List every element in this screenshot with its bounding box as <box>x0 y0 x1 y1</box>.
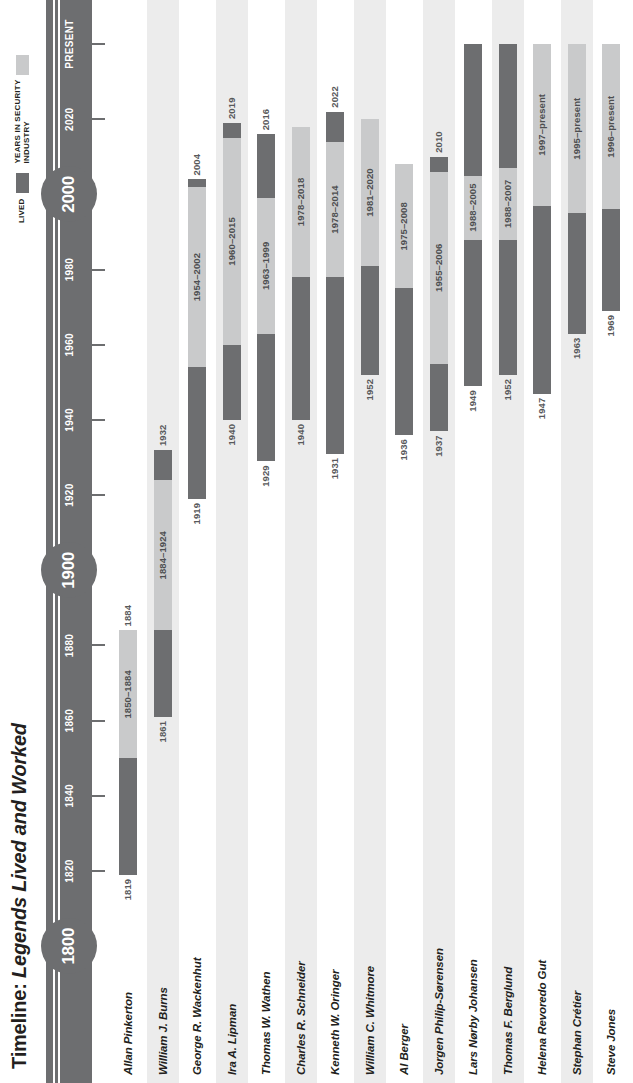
person-name-label: Thomas F. Berglund <box>492 967 524 1075</box>
timeline-axis: 182018401860188019201940196019802020PRES… <box>46 0 104 1083</box>
axis-tick-label: 1860 <box>64 709 75 732</box>
person-name-label: Kenneth W. Oringer <box>319 970 351 1075</box>
work-span-label: 1963–1999 <box>250 242 282 290</box>
person-name-label: Steve Jones <box>595 1009 627 1075</box>
birth-year-label: 1819 <box>112 875 144 901</box>
axis-century-node: 2000 <box>41 166 97 222</box>
work-span-label: 1955–2006 <box>423 244 455 292</box>
axis-century-node: 1800 <box>41 918 97 974</box>
legend-label-lived: LIVED <box>18 198 27 223</box>
lifespan-bar[interactable] <box>361 119 379 375</box>
birth-year-label: 1947 <box>526 394 558 420</box>
end-year-label: 1884 <box>112 605 144 631</box>
person-name-label: Thomas W. Wathen <box>250 972 282 1075</box>
birth-year-label: 1952 <box>354 375 386 401</box>
segment-lived <box>602 209 620 310</box>
timeline-row[interactable]: Thomas W. Wathen19291963–19992016 <box>250 0 282 1083</box>
axis-tick-mark <box>92 494 105 496</box>
work-span-label: 1995–present <box>561 98 593 160</box>
legend-item-worked: YEARS IN SECURITY INDUSTRY <box>14 55 32 164</box>
work-span-label: 1988–2005 <box>457 183 489 231</box>
person-name-label: Charles R. Schneider <box>285 961 317 1075</box>
rotated-artboard: Timeline: Legends Lived and Worked LIVED… <box>0 0 633 1083</box>
page-title: Timeline: Legends Lived and Worked <box>8 723 31 1069</box>
work-span-label: 1996–present <box>595 96 627 158</box>
birth-year-label: 1940 <box>216 420 248 446</box>
person-name-label: George R. Wackenhut <box>181 958 213 1075</box>
birth-year-label: 1936 <box>388 435 420 461</box>
axis-tick-mark <box>92 269 105 271</box>
work-span-label: 1884–1924 <box>147 531 179 579</box>
legend-swatch-worked-icon <box>16 55 29 75</box>
legend: LIVED YEARS IN SECURITY INDUSTRY <box>14 55 32 223</box>
axis-century-node: 1900 <box>41 542 97 598</box>
timeline-row[interactable]: Kenneth W. Oringer19311978–20142022 <box>319 0 351 1083</box>
page-title-emphasis: Legends Lived and Worked <box>8 723 30 978</box>
timeline-row[interactable]: Ira A. Lipman19401960–20152019 <box>216 0 248 1083</box>
axis-tick-label: 1980 <box>64 258 75 281</box>
axis-tick-label: 1940 <box>64 408 75 431</box>
legend-swatch-lived-icon <box>16 173 29 193</box>
timeline-row[interactable]: William C. Whitmore19521981–2020 <box>354 0 386 1083</box>
axis-tick-label: 1820 <box>64 859 75 882</box>
segment-lived-after-work <box>223 123 241 138</box>
end-year-label: 2019 <box>216 97 248 123</box>
end-year-label: 2016 <box>250 109 282 135</box>
segment-lived-after-work <box>188 179 206 187</box>
timeline-row[interactable]: William J. Burns18611884–19241932 <box>147 0 179 1083</box>
timeline-row[interactable]: Charles R. Schneider19401978–2018 <box>285 0 317 1083</box>
lifespan-bar[interactable] <box>602 44 620 311</box>
segment-lived-after-work <box>430 157 448 172</box>
lifespan-bar[interactable] <box>154 450 172 717</box>
axis-tick-mark <box>92 419 105 421</box>
segment-lived <box>223 345 241 420</box>
timeline-rows: Allan Pinkerton18191850–18841884William … <box>112 0 633 1083</box>
timeline-row[interactable]: George R. Wackenhut19191954–20022004 <box>181 0 213 1083</box>
person-name-label: William J. Burns <box>147 987 179 1075</box>
axis-tick-label: 1960 <box>64 333 75 356</box>
lifespan-bar[interactable] <box>292 127 310 420</box>
axis-tick-mark <box>92 645 105 647</box>
work-span-label: 1997–present <box>526 94 558 156</box>
work-span-label: 1954–2002 <box>181 253 213 301</box>
person-name-label: Stephan Crétier <box>561 991 593 1075</box>
timeline-row[interactable]: Steve Jones19691996–present <box>595 0 627 1083</box>
segment-lived-after-work <box>464 44 482 176</box>
lifespan-bar[interactable] <box>257 134 275 461</box>
timeline-row[interactable]: Lars Nørby Johansen19491988–2005 <box>457 0 489 1083</box>
lifespan-bar[interactable] <box>223 123 241 420</box>
lifespan-bar[interactable] <box>119 630 137 874</box>
timeline-row[interactable]: Jorgen Philip-Sørensen19371955–20062010 <box>423 0 455 1083</box>
segment-lived <box>499 240 517 375</box>
timeline-row[interactable]: Thomas F. Berglund19521988–2007 <box>492 0 524 1083</box>
person-name-label: Helena Revoredo Gut <box>526 960 558 1075</box>
timeline-row[interactable]: Helena Revoredo Gut19471997–present <box>526 0 558 1083</box>
person-name-label: Al Berger <box>388 1024 420 1075</box>
lifespan-bar[interactable] <box>430 157 448 431</box>
person-name-label: Jorgen Philip-Sørensen <box>423 948 455 1075</box>
end-year-label: 2022 <box>319 86 351 112</box>
segment-lived <box>361 266 379 375</box>
timeline-row[interactable]: Allan Pinkerton18191850–18841884 <box>112 0 144 1083</box>
segment-lived-after-work <box>499 44 517 168</box>
lifespan-bar[interactable] <box>188 179 206 499</box>
lifespan-bar[interactable] <box>326 112 344 454</box>
birth-year-label: 1929 <box>250 461 282 487</box>
timeline-row[interactable]: Al Berger19361975–2008 <box>388 0 420 1083</box>
lifespan-bar[interactable] <box>568 44 586 333</box>
segment-lived <box>533 206 551 394</box>
axis-tick-label: 2020 <box>64 108 75 131</box>
birth-year-label: 1969 <box>595 311 627 337</box>
timeline-row[interactable]: Stephan Crétier19631995–present <box>561 0 593 1083</box>
axis-hairline-top <box>53 0 55 1083</box>
axis-tick-label: PRESENT <box>64 19 75 68</box>
work-span-label: 1988–2007 <box>492 180 524 228</box>
work-span-label: 1978–2018 <box>285 178 317 226</box>
person-name-label: William C. Whitmore <box>354 966 386 1075</box>
birth-year-label: 1861 <box>147 717 179 743</box>
segment-lived <box>568 213 586 333</box>
segment-lived <box>292 277 310 420</box>
timeline-infographic: Timeline: Legends Lived and Worked LIVED… <box>0 0 633 1083</box>
birth-year-label: 1940 <box>285 420 317 446</box>
work-span-label: 1960–2015 <box>216 217 248 265</box>
